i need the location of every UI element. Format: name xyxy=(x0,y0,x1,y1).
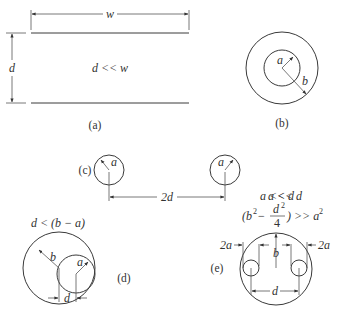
left-a-label: a xyxy=(111,155,117,169)
caption-a: (a) xyxy=(89,119,102,132)
d-label: d xyxy=(64,291,71,305)
left-radius-arrow xyxy=(101,160,109,170)
condition-label: d << w xyxy=(92,61,128,75)
svg-text:d: d xyxy=(273,202,280,216)
svg-text:2: 2 xyxy=(319,207,323,216)
b-label: b xyxy=(273,246,279,260)
b-label: b xyxy=(50,250,56,264)
svg-text:2: 2 xyxy=(253,207,257,216)
panel-a-parallel-plates: w d d << w (a) xyxy=(6,7,189,132)
panel-d-eccentric: d < (b − a) b a d (d) xyxy=(23,216,131,305)
right-2a-label: 2a xyxy=(318,238,330,252)
spacing-label: 2d xyxy=(161,190,174,204)
right-a-label: a xyxy=(218,155,224,169)
d-label: d xyxy=(272,284,279,298)
caption-e: (e) xyxy=(211,262,224,275)
svg-text:2: 2 xyxy=(281,201,285,210)
right-radius-arrow xyxy=(225,160,233,170)
a-label: a xyxy=(277,53,283,67)
condition-2-formula: (b 2 − d 2 4 ) >> a 2 xyxy=(242,201,323,230)
radius-b-arrow xyxy=(39,250,59,268)
svg-text:−: − xyxy=(258,209,265,223)
caption-b: (b) xyxy=(275,117,289,130)
b-label: b xyxy=(302,74,308,88)
a-label: a xyxy=(77,255,83,269)
transmission-line-geometries-figure: w d d << w (a) a b (b) (c) a a 2d a << d xyxy=(0,0,344,316)
condition-label: d < (b − a) xyxy=(31,216,85,230)
radius-a-arrow xyxy=(282,57,293,68)
w-label: w xyxy=(106,7,114,21)
svg-text:4: 4 xyxy=(274,216,280,230)
svg-text:(b: (b xyxy=(242,209,252,223)
caption-d: (d) xyxy=(117,272,131,285)
caption-c: (c) xyxy=(79,164,92,177)
d-label: d xyxy=(9,61,16,75)
svg-text:) >> a: ) >> a xyxy=(286,209,319,223)
condition-1-label: a << d xyxy=(260,189,295,203)
left-2a-label: 2a xyxy=(220,238,232,252)
panel-e-shielded-pair: a << d (b 2 − d 2 4 ) >> a 2 b 2a xyxy=(211,189,330,305)
panel-b-coaxial: a b (b) xyxy=(246,32,318,130)
